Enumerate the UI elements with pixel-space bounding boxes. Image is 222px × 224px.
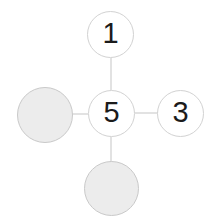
node-center[interactable]: 5 <box>88 90 135 137</box>
node-right[interactable]: 3 <box>157 90 204 137</box>
diagram-canvas: 1 5 3 <box>0 0 222 224</box>
node-right-label: 3 <box>172 98 188 127</box>
node-bottom[interactable] <box>84 161 139 216</box>
node-center-label: 5 <box>103 98 119 127</box>
node-left[interactable] <box>17 87 73 143</box>
node-top[interactable]: 1 <box>87 11 134 58</box>
node-top-label: 1 <box>102 19 118 48</box>
